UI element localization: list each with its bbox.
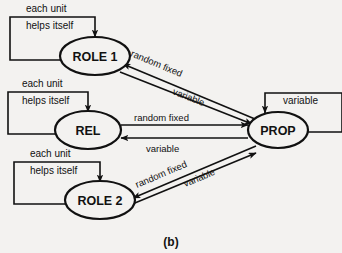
edge-prop-to-role1: random fixed [123, 48, 255, 119]
node-rel[interactable]: REL [55, 111, 121, 149]
figure-caption: (b) [163, 235, 178, 249]
edge-role1-to-prop-label: variable [171, 86, 206, 108]
self-loop-role2-label-bottom: helps itself [30, 165, 77, 176]
self-loop-role2-label-top: each unit [30, 148, 71, 159]
node-rel-label: REL [76, 124, 101, 138]
diagram-figure: each unit helps itself each unit helps i… [0, 0, 342, 253]
edge-rel-to-prop: random fixed [121, 112, 248, 125]
node-role2-label: ROLE 2 [77, 194, 122, 208]
self-loop-prop-label: variable [283, 95, 318, 106]
node-prop[interactable]: PROP [248, 112, 308, 148]
edge-prop-to-rel: variable [121, 138, 248, 154]
node-prop-label: PROP [260, 124, 295, 138]
edge-rel-to-prop-label: random fixed [134, 112, 189, 123]
node-role1-label: ROLE 1 [72, 50, 117, 64]
node-role1[interactable]: ROLE 1 [60, 37, 130, 75]
node-role2[interactable]: ROLE 2 [65, 181, 135, 219]
edge-prop-to-rel-label: variable [146, 143, 179, 154]
edge-prop-to-role1-label: random fixed [129, 48, 184, 79]
self-loop-role1-label-bottom: helps itself [26, 20, 73, 31]
self-loop-rel-label-top: each unit [22, 78, 63, 89]
self-loop-rel-label-bottom: helps itself [22, 95, 69, 106]
self-loop-role1-label-top: each unit [26, 3, 67, 14]
